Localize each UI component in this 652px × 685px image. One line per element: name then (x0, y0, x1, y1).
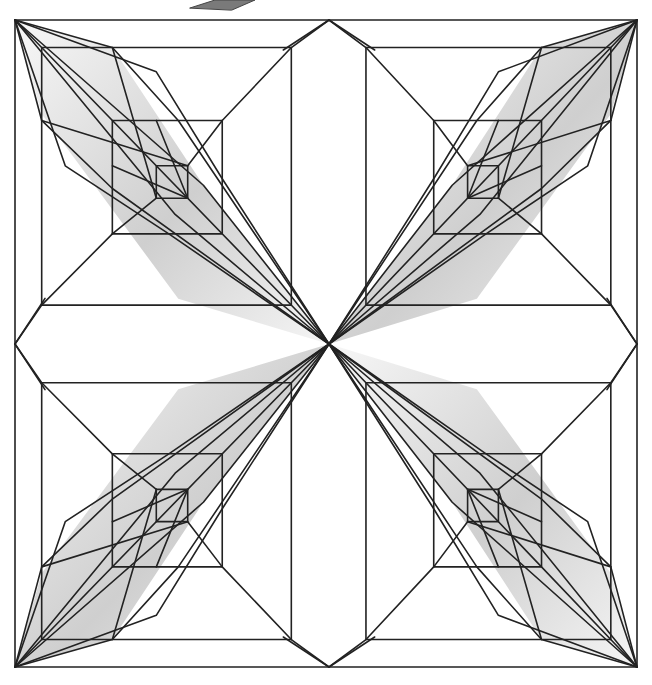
mitre-line (222, 567, 291, 640)
geometric-pattern (0, 0, 652, 685)
cross-arm-tip-bottom (283, 637, 374, 667)
cross-arm-tip-left (15, 298, 45, 389)
mitre-line (222, 48, 291, 121)
mitre-line (42, 234, 113, 305)
fan-ray (329, 344, 637, 667)
fan-ray (15, 20, 329, 344)
fan-ray (15, 344, 329, 667)
mitre-line (542, 383, 611, 454)
mitre-line (366, 567, 434, 640)
mitre-line (542, 234, 611, 305)
mitre-line (42, 383, 113, 454)
cross-arm-tip-top (283, 20, 374, 50)
cross-arm-tip-right (607, 298, 637, 389)
top-ornament (190, 0, 255, 10)
mitre-line (366, 48, 434, 121)
fan-ray (329, 20, 637, 344)
